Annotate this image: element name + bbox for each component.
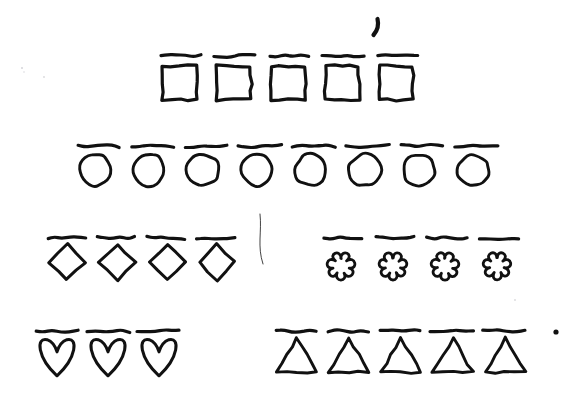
row-diamonds	[48, 236, 235, 281]
tally-square-item	[322, 56, 364, 101]
tally-bar-icon	[380, 330, 420, 331]
tally-bar-icon	[87, 330, 130, 332]
tally-bar-icon	[376, 237, 414, 239]
circle-shape-icon	[241, 154, 272, 186]
circle-shape-icon	[404, 155, 435, 186]
circle-shape-icon	[133, 155, 164, 187]
tally-bar-icon	[185, 145, 227, 147]
tally-triangle-item	[328, 330, 369, 373]
tally-bar-icon	[401, 144, 443, 146]
tally-diamond-item	[147, 236, 186, 279]
circle-shape-icon	[348, 153, 381, 185]
tally-bar-icon	[197, 238, 235, 239]
tally-triangle-item	[483, 330, 526, 373]
triangle-shape-icon	[381, 338, 421, 374]
row-squares	[161, 55, 418, 101]
tally-bar-icon	[455, 145, 498, 147]
tally-bar-icon	[483, 330, 525, 332]
tally-flower-item	[376, 237, 414, 281]
tally-flower-item	[479, 239, 518, 280]
flower-shape-icon	[483, 253, 510, 280]
diamond-shape-icon	[150, 245, 186, 280]
circle-shape-icon	[186, 154, 219, 185]
paper-speck	[21, 67, 23, 69]
tally-bar-icon	[147, 236, 185, 239]
paper-specks-layer	[21, 67, 516, 301]
flower-shape-icon	[327, 253, 355, 280]
square-shape-icon	[379, 65, 414, 101]
tally-bar-icon	[427, 237, 468, 239]
square-shape-icon	[270, 66, 306, 101]
circle-shape-icon	[80, 155, 111, 187]
diamond-shape-icon	[49, 244, 86, 280]
shapes-sheet	[0, 0, 588, 395]
square-shape-icon	[216, 65, 252, 101]
tally-circle-item	[401, 144, 443, 186]
flower-shape-icon	[431, 253, 459, 280]
row-hearts	[36, 330, 179, 376]
drawing-canvas	[0, 0, 588, 395]
tally-square-item	[270, 55, 309, 101]
tally-bar-icon	[137, 330, 179, 332]
tally-bar-icon	[322, 56, 364, 57]
tally-heart-item	[36, 330, 78, 376]
tally-circle-item	[132, 145, 174, 186]
triangle-shape-icon	[276, 338, 316, 373]
tally-bar-icon	[97, 237, 134, 239]
triangle-shape-icon	[432, 338, 474, 373]
heart-shape-icon	[91, 339, 125, 375]
triangle-shape-icon	[328, 338, 369, 373]
tally-bar-icon	[78, 145, 119, 148]
tally-triangle-item	[380, 330, 420, 374]
rows-layer	[36, 55, 526, 376]
heart-shape-icon	[142, 339, 176, 375]
tally-circle-item	[185, 145, 227, 185]
paper-speck	[43, 76, 45, 78]
circle-shape-icon	[457, 155, 489, 186]
comma-mark	[374, 19, 379, 35]
tally-triangle-item	[276, 330, 316, 373]
tally-circle-item	[238, 145, 282, 187]
tally-heart-item	[137, 330, 179, 376]
flower-shape-icon	[379, 253, 407, 280]
tally-diamond-item	[197, 238, 235, 281]
tally-flower-item	[324, 237, 362, 280]
tally-bar-icon	[479, 239, 518, 240]
tally-circle-item	[292, 145, 335, 185]
square-shape-icon	[324, 65, 360, 101]
tally-heart-item	[87, 330, 130, 376]
row-circles	[78, 144, 498, 186]
tally-bar-icon	[378, 55, 418, 56]
tally-bar-icon	[346, 145, 389, 148]
tally-bar-icon	[48, 237, 85, 239]
tally-square-item	[378, 55, 418, 101]
tally-square-item	[161, 55, 201, 101]
diamond-shape-icon	[98, 245, 135, 281]
tally-bar-icon	[214, 55, 255, 58]
heart-shape-icon	[40, 339, 74, 375]
circle-shape-icon	[295, 153, 326, 185]
tally-flower-item	[427, 237, 468, 280]
tally-bar-icon	[132, 145, 174, 147]
tally-bar-icon	[276, 330, 316, 332]
tally-circle-item	[346, 145, 389, 186]
row-triangles	[276, 330, 526, 374]
tally-circle-item	[78, 145, 119, 187]
tally-square-item	[214, 55, 255, 101]
square-shape-icon	[162, 65, 198, 101]
dot-mark	[553, 329, 558, 334]
tally-bar-icon	[270, 55, 309, 57]
tally-bar-icon	[36, 330, 78, 332]
tally-circle-item	[455, 145, 498, 185]
paper-speck	[23, 71, 25, 73]
row-flowers	[324, 237, 519, 281]
diamond-shape-icon	[200, 244, 235, 281]
tally-bar-icon	[324, 237, 362, 239]
tally-bar-icon	[430, 330, 474, 331]
tally-bar-icon	[328, 330, 368, 332]
stray-line	[260, 214, 263, 264]
paper-speck	[514, 299, 516, 301]
tally-bar-icon	[161, 55, 201, 57]
triangle-shape-icon	[486, 337, 526, 373]
tally-triangle-item	[430, 330, 474, 372]
